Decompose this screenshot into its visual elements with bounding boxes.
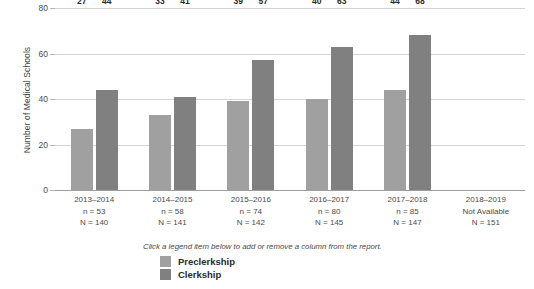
x-category-sublabel-0: n = 53	[55, 206, 133, 218]
bar-preclerkship[interactable]: 44	[384, 8, 406, 190]
legend-item-clerkship[interactable]: Clerkship	[160, 268, 235, 281]
x-category-sublabel-0: n = 80	[290, 206, 368, 218]
bar-clerkship[interactable]: 44	[96, 8, 118, 190]
bar-group: 3341	[133, 8, 211, 190]
bar-value-label: 27	[77, 0, 86, 5]
bar-rect[interactable]: 44	[96, 90, 118, 190]
bar-group-bars: 4063	[290, 8, 368, 190]
x-category-sublabel-0: n = 58	[133, 206, 211, 218]
bar-value-label: 44	[102, 0, 111, 5]
x-category-name: 2014–2015	[133, 194, 211, 206]
legend-label: Clerkship	[178, 269, 221, 280]
bar-rect[interactable]: 44	[384, 90, 406, 190]
plot-area: 02040608027443341395740634468	[55, 8, 525, 190]
bar-value-label: 57	[259, 0, 268, 5]
bar-rect[interactable]: 27	[71, 129, 93, 190]
y-tick-label-40: 40	[39, 94, 48, 104]
legend-hint-text: Click a legend item below to add or remo…	[143, 242, 382, 251]
x-category-name: 2015–2016	[212, 194, 290, 206]
bar-group-bars: 3341	[133, 8, 211, 190]
x-category-label: 2018–2019Not AvailableN = 151	[447, 194, 525, 229]
x-category-label: 2014–2015n = 58N = 141	[133, 194, 211, 229]
y-tick-mark-0	[50, 190, 55, 191]
bar-group-bars: 2744	[55, 8, 133, 190]
bar-clerkship[interactable]: 68	[409, 8, 431, 190]
chart-legend: PreclerkshipClerkship	[160, 255, 235, 281]
x-category-name: 2013–2014	[55, 194, 133, 206]
bar-group: 2744	[55, 8, 133, 190]
bar-rect[interactable]: 40	[306, 99, 328, 190]
x-category-label: 2013–2014n = 53N = 140	[55, 194, 133, 229]
bar-group	[447, 8, 525, 190]
x-category-name: 2016–2017	[290, 194, 368, 206]
x-category-label: 2015–2016n = 74N = 142	[212, 194, 290, 229]
bar-preclerkship[interactable]: 27	[71, 8, 93, 190]
x-category-sublabel-1: N = 140	[55, 217, 133, 229]
x-category-name: 2018–2019	[447, 194, 525, 206]
x-category-sublabel-0: n = 74	[212, 206, 290, 218]
bar-value-label: 68	[415, 0, 424, 5]
bar-value-label: 40	[312, 0, 321, 5]
y-tick-label-20: 20	[39, 140, 48, 150]
bar-rect[interactable]: 33	[149, 115, 171, 190]
bar-preclerkship[interactable]	[462, 8, 484, 190]
bar-preclerkship[interactable]: 39	[227, 8, 249, 190]
legend-swatch-icon	[160, 269, 171, 280]
bar-group: 4063	[290, 8, 368, 190]
bar-group: 4468	[368, 8, 446, 190]
bar-group: 3957	[212, 8, 290, 190]
x-category-sublabel-0: n = 85	[368, 206, 446, 218]
legend-swatch-icon	[160, 256, 171, 267]
bar-value-label: 63	[337, 0, 346, 5]
x-category-sublabel-0: Not Available	[447, 206, 525, 218]
bar-clerkship[interactable]: 57	[252, 8, 274, 190]
bar-value-label: 41	[180, 0, 189, 5]
bar-rect[interactable]: 41	[174, 97, 196, 190]
bar-rect[interactable]: 63	[331, 47, 353, 190]
y-tick-label-80: 80	[39, 3, 48, 13]
legend-label: Preclerkship	[178, 256, 235, 267]
bar-preclerkship[interactable]: 33	[149, 8, 171, 190]
bar-value-label: 33	[155, 0, 164, 5]
x-category-sublabel-1: N = 145	[290, 217, 368, 229]
x-category-name: 2017–2018	[368, 194, 446, 206]
bar-rect[interactable]: 68	[409, 35, 431, 190]
x-category-sublabel-1: N = 151	[447, 217, 525, 229]
legend-item-preclerkship[interactable]: Preclerkship	[160, 255, 235, 268]
bar-value-label: 44	[390, 0, 399, 5]
x-axis-line	[55, 190, 525, 191]
y-tick-label-60: 60	[39, 49, 48, 59]
bar-preclerkship[interactable]: 40	[306, 8, 328, 190]
x-category-sublabel-1: N = 142	[212, 217, 290, 229]
bar-group-bars: 4468	[368, 8, 446, 190]
bar-rect[interactable]: 39	[227, 101, 249, 190]
x-category-label: 2016–2017n = 80N = 145	[290, 194, 368, 229]
x-category-label: 2017–2018n = 85N = 147	[368, 194, 446, 229]
bar-clerkship[interactable]: 41	[174, 8, 196, 190]
bar-chart: Number of Medical Schools 02040608027443…	[0, 0, 534, 289]
bar-group-bars	[447, 8, 525, 190]
bar-clerkship[interactable]: 63	[331, 8, 353, 190]
bar-group-bars: 3957	[212, 8, 290, 190]
bar-clerkship[interactable]	[487, 8, 509, 190]
bar-value-label: 39	[234, 0, 243, 5]
y-axis-title: Number of Medical Schools	[22, 10, 32, 190]
x-category-sublabel-1: N = 141	[133, 217, 211, 229]
y-tick-label-0: 0	[43, 185, 48, 195]
x-category-sublabel-1: N = 147	[368, 217, 446, 229]
bar-rect[interactable]: 57	[252, 60, 274, 190]
